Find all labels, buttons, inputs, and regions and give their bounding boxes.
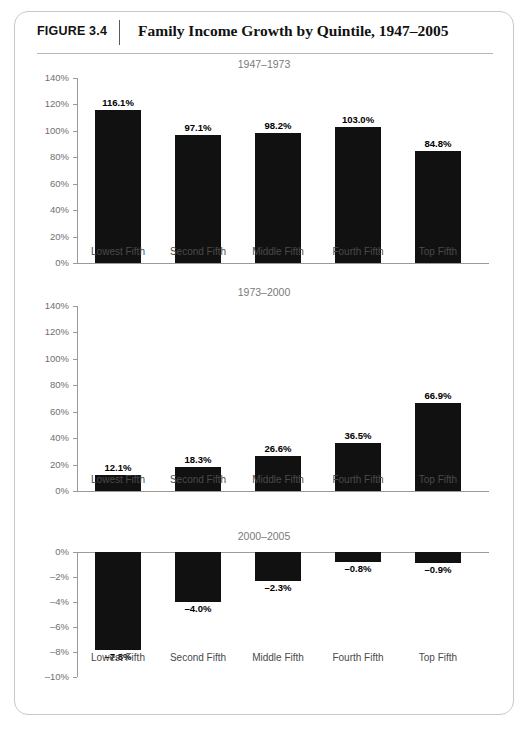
bar (255, 552, 301, 581)
y-axis-tick-label: –4% (15, 596, 69, 607)
category-label: Second Fifth (153, 246, 243, 257)
y-axis-tick (73, 210, 77, 211)
y-axis-tick-label: 0% (15, 485, 69, 496)
bar (335, 127, 381, 263)
bar (175, 552, 221, 602)
y-axis-tick-label: –8% (15, 646, 69, 657)
bar-value-label: 103.0% (318, 114, 398, 125)
bar-value-label: 18.3% (158, 454, 238, 465)
category-label: Fourth Fifth (313, 474, 403, 485)
y-axis-tick (73, 385, 77, 386)
y-axis-tick (73, 131, 77, 132)
bar-value-label: –2.3% (238, 582, 318, 593)
y-axis-tick (73, 237, 77, 238)
category-label: Middle Fifth (233, 474, 323, 485)
y-axis-tick (73, 184, 77, 185)
bar-value-label: 12.1% (78, 462, 158, 473)
bar-value-label: –0.8% (318, 563, 398, 574)
category-label: Lowest Fifth (73, 652, 163, 663)
y-axis-tick-label: 100% (15, 353, 69, 364)
y-axis-tick-label: 80% (15, 379, 69, 390)
y-axis-tick-label: 100% (15, 125, 69, 136)
y-axis-tick-label: 120% (15, 326, 69, 337)
bar-value-label: 26.6% (238, 443, 318, 454)
category-label: Second Fifth (153, 474, 243, 485)
x-axis-line (77, 263, 489, 264)
y-axis-tick (73, 627, 77, 628)
y-axis-tick (73, 332, 77, 333)
y-axis-tick-label: 60% (15, 406, 69, 417)
y-axis-tick (73, 677, 77, 678)
bar-value-label: 66.9% (398, 390, 478, 401)
x-axis-line (77, 491, 489, 492)
y-axis-tick (73, 465, 77, 466)
bar (415, 552, 461, 563)
bar (95, 110, 141, 263)
y-axis-tick-label: 0% (15, 257, 69, 268)
y-axis-tick-label: 0% (15, 546, 69, 557)
y-axis-tick-label: 140% (15, 72, 69, 83)
bar-value-label: 98.2% (238, 120, 318, 131)
bar (95, 552, 141, 650)
category-label: Second Fifth (153, 652, 243, 663)
y-axis-tick (73, 602, 77, 603)
panel-subtitle: 1947–1973 (15, 58, 513, 70)
bar-value-label: 116.1% (78, 97, 158, 108)
category-label: Top Fifth (393, 246, 483, 257)
y-axis-tick (73, 104, 77, 105)
y-axis-tick-label: 20% (15, 459, 69, 470)
category-label: Lowest Fifth (73, 474, 163, 485)
header-divider (119, 20, 120, 45)
y-axis-tick (73, 491, 77, 492)
y-axis-tick-label: 80% (15, 151, 69, 162)
y-axis-tick (73, 157, 77, 158)
y-axis-tick (73, 306, 77, 307)
category-label: Fourth Fifth (313, 652, 403, 663)
figure-header: FIGURE 3.4 Family Income Growth by Quint… (15, 12, 513, 54)
y-axis-tick-label: –6% (15, 621, 69, 632)
y-axis-tick-label: 40% (15, 204, 69, 215)
bar-value-label: –0.9% (398, 564, 478, 575)
panel-subtitle: 2000–2005 (15, 530, 513, 542)
y-axis-tick (73, 552, 77, 553)
category-label: Lowest Fifth (73, 246, 163, 257)
y-axis-tick (73, 412, 77, 413)
y-axis-tick-label: –2% (15, 571, 69, 582)
chart-panel-2000-2005: 2000–2005 0%–2%–4%–6%–8%–10%–7.8%Lowest … (15, 522, 513, 717)
bar (335, 552, 381, 562)
category-label: Middle Fifth (233, 652, 323, 663)
y-axis-tick-label: –10% (15, 671, 69, 682)
figure-frame: FIGURE 3.4 Family Income Growth by Quint… (14, 11, 514, 715)
y-axis-tick (73, 78, 77, 79)
y-axis-tick-label: 40% (15, 432, 69, 443)
bar-value-label: 97.1% (158, 122, 238, 133)
bar (255, 133, 301, 263)
y-axis-tick-label: 120% (15, 98, 69, 109)
chart-panel-1973-2000: 1973–2000 0%20%40%60%80%100%120%140%12.1… (15, 284, 513, 539)
y-axis-tick-label: 140% (15, 300, 69, 311)
category-label: Top Fifth (393, 652, 483, 663)
category-label: Middle Fifth (233, 246, 323, 257)
y-axis-tick (73, 438, 77, 439)
bar (175, 135, 221, 263)
bar-value-label: 84.8% (398, 138, 478, 149)
header-rule (37, 53, 493, 54)
bar-value-label: –4.0% (158, 603, 238, 614)
y-axis-tick-label: 20% (15, 231, 69, 242)
y-axis-tick (73, 263, 77, 264)
figure-number: FIGURE 3.4 (37, 24, 107, 38)
chart-panel-1947-1973: 1947–1973 0%20%40%60%80%100%120%140%116.… (15, 56, 513, 311)
category-label: Top Fifth (393, 474, 483, 485)
y-axis-tick (73, 577, 77, 578)
figure-title: Family Income Growth by Quintile, 1947–2… (138, 22, 449, 40)
y-axis-tick (73, 359, 77, 360)
category-label: Fourth Fifth (313, 246, 403, 257)
y-axis-tick-label: 60% (15, 178, 69, 189)
bar-value-label: 36.5% (318, 430, 398, 441)
panel-subtitle: 1973–2000 (15, 286, 513, 298)
